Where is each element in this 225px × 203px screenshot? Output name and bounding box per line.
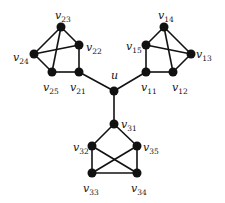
label-v11: v11 [141,81,157,96]
node-v21 [75,68,84,77]
node-u [110,87,119,96]
graph-diagram: uv11v12v13v14v15v21v22v23v24v25v31v32v33… [0,0,225,203]
label-v24: v24 [13,51,29,66]
node-v22 [75,41,84,50]
node-v32 [88,142,97,151]
label-layer: uv11v12v13v14v15v21v22v23v24v25v31v32v33… [13,9,212,197]
label-v22: v22 [86,41,102,56]
graph-svg: uv11v12v13v14v15v21v22v23v24v25v31v32v33… [0,0,225,203]
label-v33: v33 [83,182,99,197]
label-v32: v32 [73,141,89,156]
node-v11 [142,68,151,77]
label-v34: v34 [131,182,147,197]
label-v13: v13 [196,48,212,63]
label-v35: v35 [143,141,159,156]
node-v34 [133,169,142,178]
node-v24 [30,50,39,59]
label-v25: v25 [43,81,59,96]
node-v31 [110,120,119,129]
label-v23: v23 [55,9,71,24]
label-v31: v31 [121,118,137,133]
label-v21: v21 [70,81,86,96]
node-v33 [88,169,97,178]
node-v13 [187,50,196,59]
node-v35 [133,142,142,151]
label-u: u [111,69,118,82]
label-v12: v12 [172,81,188,96]
edge-layer [34,27,191,173]
node-v25 [48,68,57,77]
label-v15: v15 [126,40,142,55]
node-layer [30,23,196,178]
node-v12 [169,68,178,77]
edge-v31-v32 [92,124,114,146]
node-v15 [142,41,151,50]
label-v14: v14 [158,9,174,24]
